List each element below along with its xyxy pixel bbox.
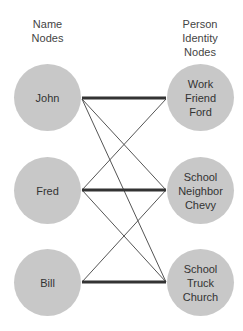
node-label-line: Friend bbox=[185, 91, 216, 105]
node-label-line: Ford bbox=[189, 105, 212, 119]
node-label-line: Work bbox=[188, 77, 213, 91]
name-node-bill: Bill bbox=[14, 249, 81, 316]
node-label-line: Truck bbox=[187, 276, 214, 290]
identity-node-chevy: School Neighbor Chevy bbox=[167, 157, 234, 224]
node-label-line: Neighbor bbox=[178, 184, 223, 198]
node-label: John bbox=[36, 91, 60, 105]
node-label-line: Chevy bbox=[185, 198, 216, 212]
node-label-line: School bbox=[184, 170, 218, 184]
node-label-line: School bbox=[184, 262, 218, 276]
name-node-fred: Fred bbox=[14, 157, 81, 224]
name-node-john: John bbox=[14, 64, 81, 131]
node-label: Bill bbox=[40, 276, 55, 290]
identity-node-church: School Truck Church bbox=[167, 249, 234, 316]
node-label-line: Church bbox=[183, 290, 218, 304]
identity-node-ford: Work Friend Ford bbox=[167, 64, 234, 131]
node-label: Fred bbox=[36, 184, 59, 198]
